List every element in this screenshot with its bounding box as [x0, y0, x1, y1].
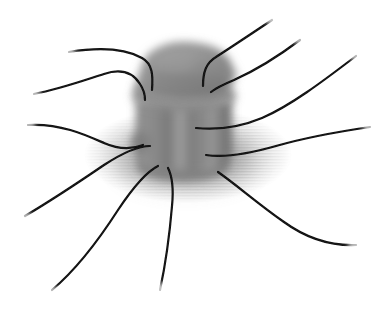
structure-illustration — [0, 0, 386, 313]
figure-canvas: Blurred grayscale rendering of a barrel-… — [0, 0, 386, 313]
